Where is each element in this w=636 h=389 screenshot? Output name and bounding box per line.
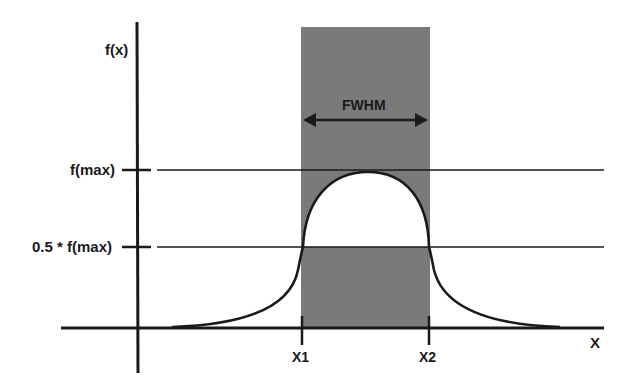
y-axis-label: f(x) bbox=[105, 41, 128, 58]
fwhm-label: FWHM bbox=[342, 97, 386, 113]
half-max-label: 0.5 * f(max) bbox=[32, 238, 112, 255]
fwhm-diagram: f(x) f(max) 0.5 * f(max) FWHM X1 X2 X bbox=[0, 0, 636, 389]
fmax-label: f(max) bbox=[70, 161, 115, 178]
x2-label: X2 bbox=[419, 349, 436, 365]
x-axis-label: X bbox=[590, 334, 600, 351]
y-axis bbox=[137, 22, 138, 373]
x1-label: X1 bbox=[292, 349, 309, 365]
